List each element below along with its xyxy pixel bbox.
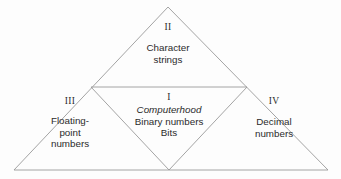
region-center-line-1: Binary numbers [114, 116, 224, 128]
region-top-numeral: II [118, 22, 218, 33]
region-center-emphasis: Computerhood [114, 104, 224, 116]
region-center-computerhood: I Computerhood Binary numbers Bits [114, 92, 224, 139]
region-left-floating-point-numbers: III Floating- point numbers [28, 96, 112, 150]
region-center-numeral: I [114, 92, 224, 103]
region-right-decimal-numbers: IV Decimal numbers [232, 96, 316, 139]
region-left-numeral: III [28, 96, 112, 107]
region-center-line-2: Bits [114, 127, 224, 139]
region-right-line-1: Decimal [232, 116, 316, 128]
region-right-line-2: numbers [232, 128, 316, 140]
region-right-numeral: IV [232, 96, 316, 107]
region-left-line-2: point [28, 127, 112, 139]
region-top-line-2: strings [118, 54, 218, 66]
region-left-line-3: numbers [28, 138, 112, 150]
region-left-line-1: Floating- [28, 115, 112, 127]
region-top-character-strings: II Character strings [118, 22, 218, 65]
diagram-canvas: II Character strings III Floating- point… [0, 0, 341, 179]
region-top-line-1: Character [118, 42, 218, 54]
